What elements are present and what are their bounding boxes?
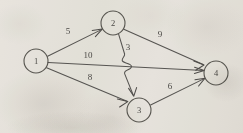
edge-1-to-3-arrowhead (117, 99, 127, 107)
node-4-label: 4 (214, 68, 219, 78)
edge-1-to-4-line (48, 62, 203, 70)
node-4[interactable]: 4 (204, 61, 228, 85)
node-1-label: 1 (34, 56, 38, 66)
node-2-label: 2 (111, 18, 115, 28)
edge-3-to-4-line (151, 79, 205, 105)
edge-weight-1-to-2: 5 (66, 26, 71, 36)
edge-2-to-4 (124, 29, 204, 70)
edge-1-to-2-line (48, 30, 102, 57)
edge-weight-1-to-3: 8 (88, 72, 93, 82)
node-3-label: 3 (137, 105, 141, 115)
edge-weight-2-to-4: 9 (158, 29, 163, 39)
edge-weight-1-to-4: 10 (84, 50, 94, 60)
node-3[interactable]: 3 (127, 98, 151, 122)
graph-diagram: 1 2 3 4 5 10 8 3 9 6 (0, 0, 243, 133)
graph-canvas: 1 2 3 4 5 10 8 3 9 6 (0, 0, 243, 133)
node-2[interactable]: 2 (101, 11, 125, 35)
edge-1-to-2 (48, 29, 103, 56)
edge-2-to-3-arrowhead (129, 88, 137, 97)
node-1[interactable]: 1 (24, 49, 48, 73)
edge-weight-3-to-4: 6 (168, 81, 173, 91)
edge-1-to-4 (48, 62, 204, 73)
edge-3-to-4 (151, 78, 205, 105)
edge-2-to-4-line (124, 29, 203, 64)
edge-weight-2-to-3: 3 (126, 42, 131, 52)
